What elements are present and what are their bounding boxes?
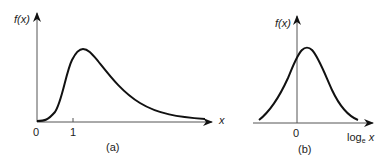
- chart-b-x-label-log: log: [347, 131, 362, 143]
- chart-a: [37, 13, 212, 122]
- chart-b-y-label: f(x): [275, 18, 291, 29]
- chart-b-tick-label-0: 0: [293, 128, 299, 139]
- figure-canvas: [0, 0, 390, 164]
- chart-b-x-label-var: x: [366, 131, 375, 143]
- chart-a-y-label: f(x): [14, 14, 30, 25]
- chart-a-curve: [37, 49, 205, 121]
- chart-a-tick-label-1: 1: [70, 127, 76, 138]
- chart-a-tick-label-0: 0: [33, 127, 39, 138]
- chart-a-x-label: x: [219, 115, 225, 126]
- chart-a-caption: (a): [106, 142, 119, 153]
- chart-b-curve: [259, 48, 358, 120]
- chart-b-x-label: loge x: [347, 132, 374, 144]
- chart-b: [253, 16, 373, 123]
- chart-b-caption: (b): [298, 144, 311, 155]
